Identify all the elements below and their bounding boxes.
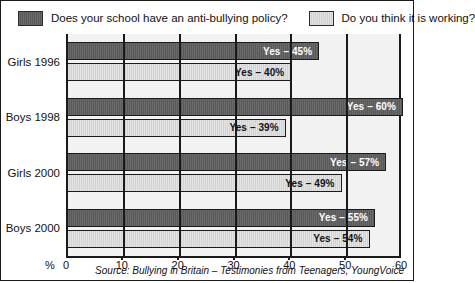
category-label-girls-2000: Girls 2000 xyxy=(8,167,60,179)
bar-value-label: Yes – 57% xyxy=(330,157,385,168)
chart-frame: Does your school have an anti-bullying p… xyxy=(0,0,414,281)
gridline xyxy=(235,34,237,256)
category-axis-labels: Girls 1996Boys 1998Girls 2000Boys 2000 xyxy=(1,34,64,256)
bar-boys-2000-s2: Yes – 54% xyxy=(68,230,370,248)
dark-swatch-icon xyxy=(18,11,43,26)
bar-girls-2000-s1: Yes – 57% xyxy=(68,153,386,171)
source-attribution: Source: Bullying in Britain – Testimonie… xyxy=(95,265,404,276)
plot-background: Yes – 45%Yes – 40%Yes – 60%Yes – 39%Yes … xyxy=(66,34,401,256)
chart-legend: Does your school have an anti-bullying p… xyxy=(1,7,415,29)
bar-rows: Yes – 45%Yes – 40%Yes – 60%Yes – 39%Yes … xyxy=(68,34,399,256)
bar-boys-2000-s1: Yes – 55% xyxy=(68,209,375,227)
bar-group: Yes – 57%Yes – 49% xyxy=(68,153,399,192)
bar-girls-2000-s2: Yes – 49% xyxy=(68,174,342,192)
bar-group: Yes – 45%Yes – 40% xyxy=(68,42,399,81)
category-label-boys-1998: Boys 1998 xyxy=(6,111,60,123)
legend-label-working: Do you think it is working? xyxy=(342,12,475,24)
category-label-boys-2000: Boys 2000 xyxy=(6,222,60,234)
light-swatch-icon xyxy=(309,11,334,26)
bar-value-label: Yes – 60% xyxy=(347,101,402,112)
bar-girls-1996-s1: Yes – 45% xyxy=(68,42,319,60)
x-tick-label: 0 xyxy=(63,259,69,271)
bar-group: Yes – 60%Yes – 39% xyxy=(68,98,399,137)
gridline xyxy=(346,34,348,256)
bar-value-label: Yes – 39% xyxy=(229,122,284,133)
bar-boys-1998-s2: Yes – 39% xyxy=(68,119,286,137)
bar-value-label: Yes – 49% xyxy=(285,178,340,189)
category-label-girls-1996: Girls 1996 xyxy=(8,56,60,68)
gridline xyxy=(123,34,125,256)
bar-group: Yes – 55%Yes – 54% xyxy=(68,209,399,248)
gridline xyxy=(290,34,292,256)
legend-item-working: Do you think it is working? xyxy=(309,11,475,26)
bar-value-label: Yes – 40% xyxy=(235,67,290,78)
legend-item-policy: Does your school have an anti-bullying p… xyxy=(18,11,288,26)
plot-area: Yes – 45%Yes – 40%Yes – 60%Yes – 39%Yes … xyxy=(66,34,401,256)
gridline xyxy=(179,34,181,256)
bar-value-label: Yes – 54% xyxy=(313,233,368,244)
x-axis-unit-label: % xyxy=(45,259,55,271)
legend-label-policy: Does your school have an anti-bullying p… xyxy=(51,12,288,24)
